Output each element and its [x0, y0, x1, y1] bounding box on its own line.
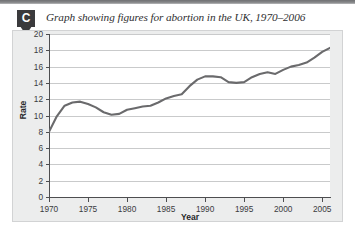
y-tick-label: 20 [13, 29, 43, 39]
y-tick-label: 4 [13, 159, 43, 169]
figure-container: C Graph showing figures for abortion in … [0, 0, 355, 232]
x-tick-mark [205, 198, 206, 202]
x-axis-label: Year [49, 212, 331, 222]
y-tick-label: 6 [13, 143, 43, 153]
x-tick-mark [244, 198, 245, 202]
y-tick-label: 2 [13, 176, 43, 186]
y-tick-label: 14 [13, 78, 43, 88]
x-tick-mark [127, 198, 128, 202]
y-tick-label: 16 [13, 62, 43, 72]
figure-caption: Graph showing figures for abortion in th… [46, 11, 346, 23]
series-line-chart [49, 34, 330, 198]
figure-badge-letter: C [17, 10, 35, 27]
chart-panel: 02468101214161820 1970197519801985199019… [12, 30, 343, 222]
x-tick-mark [283, 198, 284, 202]
top-rule-divider [0, 0, 355, 4]
x-tick-mark [49, 198, 50, 202]
y-axis-label: Rate [18, 88, 28, 132]
x-tick-mark [88, 198, 89, 202]
x-tick-mark [322, 198, 323, 202]
y-tick-label: 18 [13, 45, 43, 55]
y-tick-label: 0 [13, 192, 43, 202]
x-tick-mark [166, 198, 167, 202]
